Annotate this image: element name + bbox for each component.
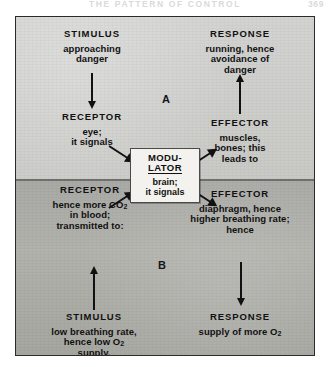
page-folio: 369 <box>308 0 324 9</box>
modulator-box: MODU- LATOR brain; it signals <box>130 148 200 203</box>
co2-subscript: 2 <box>123 203 127 210</box>
section-a-receptor: RECEPTOR eye; it signals <box>22 112 162 148</box>
section-b-stimulus-line2: hence low O2 <box>64 336 124 347</box>
section-a-effector-heading: EFFECTOR <box>168 118 312 129</box>
section-b-stimulus-detail: low breathing rate, hence low O2 supply. <box>18 327 170 356</box>
o2-subscript: 2 <box>277 330 281 337</box>
modulator-title: MODU- LATOR <box>148 153 182 174</box>
o2-subscript: 2 <box>120 340 124 347</box>
running-head: THE PATTERN OF CONTROL 369 <box>0 0 330 11</box>
section-b-effector-detail: diaphragm, hence higher breathing rate; … <box>166 204 314 236</box>
running-head-title: THE PATTERN OF CONTROL <box>89 0 241 9</box>
book-page: THE PATTERN OF CONTROL 369 A B STIMULUS … <box>0 0 330 367</box>
section-b-response-heading: RESPONSE <box>166 312 314 323</box>
section-a-response: RESPONSE running, hence avoidance of dan… <box>168 29 312 76</box>
section-a-receptor-heading: RECEPTOR <box>22 112 162 123</box>
section-b-response-detail: supply of more O2 <box>166 327 314 338</box>
section-b-stimulus-heading: STIMULUS <box>18 312 170 323</box>
control-pattern-figure: A B STIMULUS approaching danger RECEPTOR… <box>15 16 315 356</box>
section-letter-b: B <box>158 259 167 271</box>
section-a-stimulus-detail: approaching danger <box>22 44 162 65</box>
section-b-response-line1: supply of more O2 <box>199 326 282 337</box>
section-a-stimulus: STIMULUS approaching danger <box>22 29 162 65</box>
section-letter-a: A <box>162 93 171 105</box>
section-a-receptor-detail: eye; it signals <box>22 127 162 148</box>
section-a-response-heading: RESPONSE <box>168 29 312 40</box>
section-b-response: RESPONSE supply of more O2 <box>166 312 314 337</box>
section-b-receptor-detail: hence more CO2 in blood; transmitted to: <box>18 200 162 232</box>
section-b-stimulus: STIMULUS low breathing rate, hence low O… <box>18 312 170 356</box>
section-a-response-detail: running, hence avoidance of danger <box>168 44 312 76</box>
modulator-subtitle: brain; it signals <box>136 177 194 197</box>
section-a-stimulus-heading: STIMULUS <box>22 29 162 40</box>
